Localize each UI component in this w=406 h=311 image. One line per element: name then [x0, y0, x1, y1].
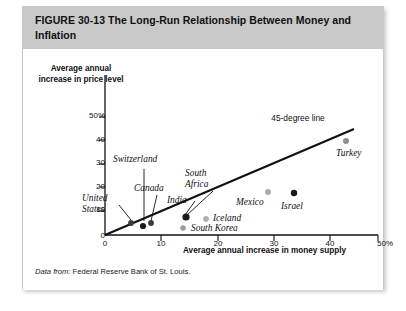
figure-card: FIGURE 30-13 The Long-Run Relationship B… — [22, 6, 384, 289]
chart-plot-area: Average annual increase in price level A… — [23, 49, 383, 290]
label-india: India — [167, 195, 187, 206]
label-iceland: Iceland — [213, 213, 241, 224]
point-united-states — [128, 220, 134, 226]
label-canada: Canada — [134, 183, 164, 194]
label-south-korea: South Korea — [191, 223, 238, 234]
point-india-south-africa — [182, 213, 189, 220]
point-south-korea — [180, 225, 186, 231]
point-canada — [148, 220, 154, 226]
leader-united-states — [119, 205, 131, 220]
point-israel — [291, 190, 297, 196]
forty-five-degree-line-label: 45-degree line — [267, 113, 329, 124]
source-note: Data from: Federal Reserve Bank of St. L… — [35, 267, 190, 276]
point-iceland — [203, 216, 209, 222]
label-turkey: Turkey — [336, 148, 362, 159]
point-switzerland — [140, 223, 146, 229]
label-switzerland: Switzerland — [113, 154, 157, 165]
label-united-states: United States — [82, 193, 108, 214]
label-mexico: Mexico — [236, 197, 264, 208]
figure-title: FIGURE 30-13 The Long-Run Relationship B… — [35, 13, 373, 42]
source-note-prefix: Data from: — [35, 267, 70, 276]
source-note-text: Federal Reserve Bank of St. Louis. — [73, 267, 191, 276]
figure-header: FIGURE 30-13 The Long-Run Relationship B… — [23, 7, 383, 49]
point-turkey — [343, 138, 349, 144]
point-mexico — [265, 189, 271, 195]
label-israel: Israel — [281, 201, 303, 212]
leader-canada — [151, 195, 157, 221]
label-south-africa: South Africa — [185, 168, 208, 189]
